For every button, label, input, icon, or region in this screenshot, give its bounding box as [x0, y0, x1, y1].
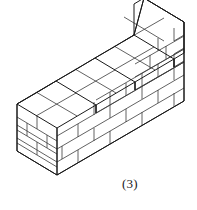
figure-caption: (3)	[122, 176, 138, 192]
stepped-brick-wall-diagram	[0, 0, 197, 210]
figure-root: (3)	[0, 0, 197, 210]
face-fills	[17, 0, 184, 175]
